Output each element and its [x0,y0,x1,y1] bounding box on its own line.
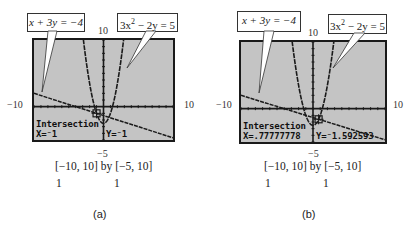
y-readout: Y=⁻1 [106,129,127,139]
y-readout: Y=⁻1.592593 [316,131,373,141]
line-equation-text: x + 3y = −4 [29,16,83,28]
parabola-equation-callout: 3x2 − 2y = 5 [117,13,178,32]
parabola-eq-rest: − 2y = 5 [345,20,385,32]
line-equation-text: x + 3y = −4 [242,14,296,26]
line-equation-callout: x + 3y = −4 [237,11,301,32]
mode-label: Intersection [243,121,306,131]
x-max-label: 10 [184,99,194,110]
mode-label: Intersection [36,119,99,129]
panel-a: x + 3y = −4 3x2 − 2y = 5 10 −10 10 −5 In… [0,0,204,233]
panel-label-b: (b) [302,208,315,220]
line-equation-callout: x + 3y = −4 [27,13,85,32]
x-min-label: −10 [7,99,23,110]
y-max-label: 10 [308,27,318,38]
calculator-screen-b: Intersection X=.77777778 Y=⁻1.592593 [239,40,387,144]
yscl-label: 1 [323,177,329,189]
window-range: [−10, 10] by [−5, 10] [55,160,152,172]
parabola-equation-callout: 3x2 − 2y = 5 [328,14,387,34]
panel-label-a: (a) [93,208,106,220]
parabola-eq-base: 3x [330,20,341,32]
xscl-label: 1 [56,177,62,189]
parabola-eq-rest: − 2y = 5 [135,19,175,31]
parabola-eq-base: 3x [120,19,131,31]
yscl-label: 1 [114,177,120,189]
xscl-label: 1 [265,177,271,189]
panel-b: x + 3y = −4 3x2 − 2y = 5 10 −10 10 −5 In… [204,0,407,233]
x-readout: X=⁻1 [36,129,57,139]
window-range: [−10, 10] by [−5, 10] [264,160,361,172]
y-min-label: −5 [308,148,319,159]
y-max-label: 10 [98,25,108,36]
y-min-label: −5 [97,148,108,159]
x-min-label: −10 [216,99,232,110]
x-readout: X=.77777778 [243,131,300,141]
calculator-screen-a: Intersection X=⁻1 Y=⁻1 [32,38,175,142]
x-max-label: 10 [393,99,403,110]
